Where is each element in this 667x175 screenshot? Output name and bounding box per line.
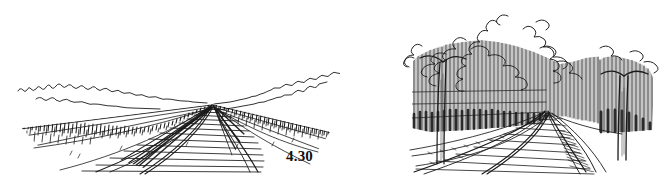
right-embankment-scrub xyxy=(213,104,332,150)
figure-plate: 4.30 xyxy=(0,0,667,175)
gravel-path-right xyxy=(548,113,606,172)
distant-scalloped-treeline xyxy=(18,84,207,109)
distant-scalloped-treeline-right xyxy=(214,69,340,110)
figure-4-30: 4.30 xyxy=(0,0,340,175)
vertical-hatch-tree-mass xyxy=(412,40,598,132)
figure-4-31-drawing xyxy=(400,0,667,175)
figure-4-31: 4.31 xyxy=(400,0,667,175)
figure-caption-4-30: 4.30 xyxy=(286,148,313,165)
